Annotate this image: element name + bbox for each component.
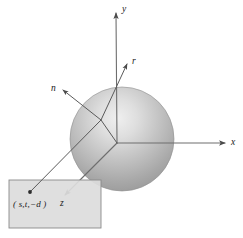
normal-vector-label: n xyxy=(51,84,56,94)
sphere xyxy=(70,87,174,191)
axis-label-z: z xyxy=(60,199,64,209)
reflected-ray-label: r xyxy=(132,57,136,67)
ray-tracing-diagram: y x z n r ( s,t,−d ) xyxy=(0,0,243,238)
axis-label-x: x xyxy=(231,138,235,148)
axis-label-y: y xyxy=(122,5,126,15)
sphere-group xyxy=(70,87,174,191)
sample-point-dot xyxy=(28,190,32,194)
sample-point-label: ( s,t,−d ) xyxy=(13,200,47,209)
marker-dots xyxy=(28,190,32,194)
